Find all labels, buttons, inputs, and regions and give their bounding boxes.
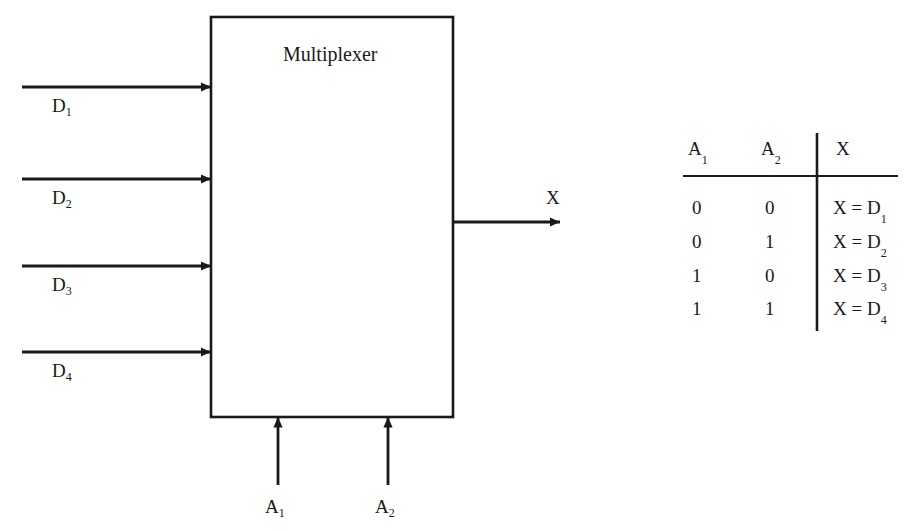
truth-table-row-4-a1: 1	[692, 298, 702, 320]
truth-table-row-4-x: X = D4	[833, 298, 887, 320]
truth-table-row-2-x: X = D2	[833, 231, 887, 253]
truth-table-row-1-a2: 0	[765, 197, 775, 219]
select-input-label-2-sub: 2	[389, 506, 395, 520]
data-input-label-1-sub: 1	[66, 105, 72, 119]
multiplexer-diagram-canvas: Multiplexer D1 D2 D3 D4 A1 A2 X A1 A2 X …	[0, 0, 914, 530]
truth-table-row-3-x-text: X = D	[833, 265, 881, 286]
truth-table-row-3-x: X = D3	[833, 265, 887, 287]
truth-table-header-x-text: X	[836, 138, 850, 159]
truth-table-header-a1-text: A	[688, 138, 702, 159]
select-input-label-2: A2	[375, 497, 395, 516]
diagram-vector-layer	[0, 0, 914, 530]
truth-table-header-a2-text: A	[761, 138, 775, 159]
data-input-label-2-sub: 2	[66, 197, 72, 211]
truth-table-row-2-a2: 1	[765, 231, 775, 253]
data-input-label-2-text: D	[52, 187, 66, 208]
data-input-label-1: D1	[52, 96, 72, 115]
data-input-label-3-text: D	[52, 274, 66, 295]
truth-table-header-x: X	[836, 138, 850, 160]
multiplexer-block-outline	[211, 17, 453, 417]
data-input-label-4-text: D	[52, 360, 66, 381]
truth-table-row-4-x-sub: 4	[881, 313, 887, 327]
truth-table-row-4-a2: 1	[765, 298, 775, 320]
output-label: X	[546, 188, 560, 207]
multiplexer-block-title: Multiplexer	[283, 43, 377, 66]
truth-table-row-2-a1: 0	[692, 231, 702, 253]
truth-table-row-3-x-sub: 3	[881, 280, 887, 294]
truth-table-row-3-a1: 1	[692, 265, 702, 287]
truth-table-row-3-a2: 0	[765, 265, 775, 287]
data-input-label-3-sub: 3	[66, 284, 72, 298]
truth-table-row-2-x-text: X = D	[833, 231, 881, 252]
select-input-label-1-sub: 1	[279, 506, 285, 520]
data-input-label-1-text: D	[52, 95, 66, 116]
data-input-label-4: D4	[52, 361, 72, 380]
data-input-label-4-sub: 4	[66, 370, 72, 384]
data-input-label-2: D2	[52, 188, 72, 207]
truth-table-header-a2: A2	[761, 138, 781, 160]
truth-table-row-1-x-sub: 1	[881, 212, 887, 226]
truth-table-header-a1-sub: 1	[702, 153, 708, 167]
select-input-label-1-text: A	[265, 496, 279, 517]
truth-table-header-a1: A1	[688, 138, 708, 160]
select-input-label-2-text: A	[375, 496, 389, 517]
truth-table-row-2-x-sub: 2	[881, 246, 887, 260]
truth-table-header-a2-sub: 2	[775, 153, 781, 167]
truth-table-row-1-a1: 0	[692, 197, 702, 219]
truth-table-row-1-x: X = D1	[833, 197, 887, 219]
truth-table-row-4-x-text: X = D	[833, 298, 881, 319]
select-input-label-1: A1	[265, 497, 285, 516]
data-input-label-3: D3	[52, 275, 72, 294]
truth-table-row-1-x-text: X = D	[833, 197, 881, 218]
